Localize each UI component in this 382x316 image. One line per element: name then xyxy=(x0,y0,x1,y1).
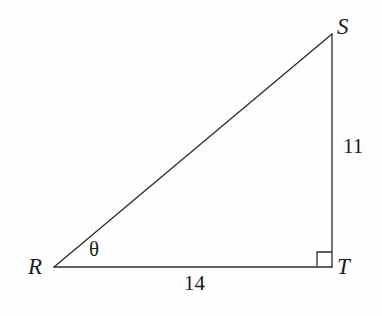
vertex-label-t: T xyxy=(337,255,350,278)
side-length-label-rt: 14 xyxy=(184,273,205,294)
triangle-figure xyxy=(0,0,382,316)
diagram-canvas: R S T 11 14 θ xyxy=(0,0,382,316)
side-length-label-st: 11 xyxy=(343,136,363,157)
right-angle-marker-icon xyxy=(317,252,332,266)
triangle-side-rs xyxy=(54,34,332,267)
angle-label-theta: θ xyxy=(89,239,99,260)
vertex-label-s: S xyxy=(337,15,349,38)
vertex-label-r: R xyxy=(28,255,42,278)
